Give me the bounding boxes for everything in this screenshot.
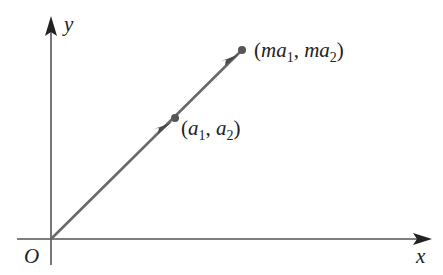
vector-m-a [51, 50, 242, 239]
vector-a-arrowhead-icon [153, 122, 172, 134]
vector-ma-arrowhead-icon [220, 54, 239, 66]
y-axis-label: y [62, 12, 74, 36]
diagram-svg: y x O (a1, a2) (ma1, ma2) [0, 0, 443, 275]
x-axis-label: x [415, 244, 426, 268]
y-axis [45, 16, 57, 265]
point-a-label: (a1, a2) [181, 116, 241, 143]
point-ma [238, 46, 246, 54]
origin-label: O [24, 244, 39, 268]
x-axis [17, 233, 432, 245]
vector-diagram: y x O (a1, a2) (ma1, ma2) [0, 0, 443, 275]
point-ma-label: (ma1, ma2) [254, 38, 344, 65]
point-a [171, 114, 179, 122]
